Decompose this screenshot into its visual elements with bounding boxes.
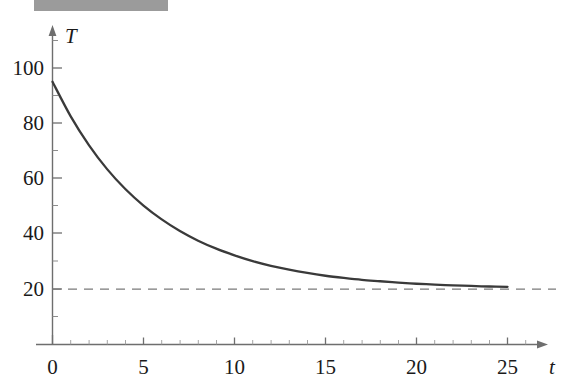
decay-curve [53,82,508,287]
x-tick-label-15: 15 [315,355,336,379]
y-tick-label-100: 100 [13,56,45,80]
y-major-ticks [53,68,63,289]
y-tick-label-80: 80 [23,111,44,135]
x-axis-arrow-icon [537,341,548,349]
x-tick-label-20: 20 [406,355,427,379]
x-major-ticks [53,335,508,345]
y-tick-label-60: 60 [23,166,44,190]
exponential-decay-plot: 100 80 60 40 20 0 5 10 15 20 25 T t [0,0,568,392]
y-tick-label-40: 40 [23,221,44,245]
x-tick-label-25: 25 [497,355,518,379]
y-axis [49,25,57,345]
x-tick-label-0: 0 [47,355,58,379]
figure-container: 100 80 60 40 20 0 5 10 15 20 25 T t [0,0,568,392]
y-axis-arrow-icon [49,25,57,36]
x-tick-label-10: 10 [224,355,245,379]
x-tick-label-5: 5 [138,355,149,379]
y-axis-label-T: T [65,24,78,48]
y-tick-label-20: 20 [23,277,44,301]
x-axis-label-t: t [549,355,556,379]
